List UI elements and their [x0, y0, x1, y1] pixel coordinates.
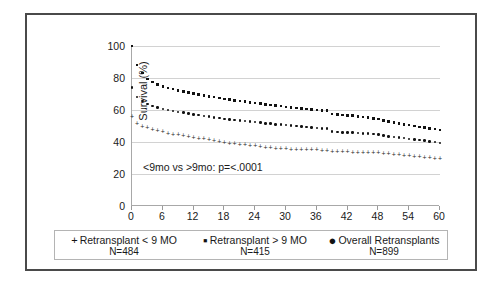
data-point — [305, 126, 308, 129]
data-point — [269, 122, 272, 125]
y-tick-label: 20 — [113, 169, 125, 179]
x-tick-label: 60 — [424, 211, 454, 221]
data-point — [346, 131, 349, 134]
data-point — [239, 119, 242, 122]
data-point — [233, 119, 236, 122]
data-point — [182, 111, 185, 114]
x-tick-label: 24 — [239, 211, 269, 221]
data-point — [423, 139, 426, 142]
x-tick-label: 42 — [332, 211, 362, 221]
data-point — [187, 112, 190, 115]
data-point — [131, 86, 134, 89]
x-tick-label: 18 — [208, 211, 238, 221]
data-point — [310, 126, 313, 129]
data-point — [398, 136, 401, 139]
data-point — [280, 123, 283, 126]
legend-marker-icon: ▪ — [203, 235, 208, 247]
data-point — [244, 120, 247, 123]
legend-item-count: N=415 — [189, 246, 321, 257]
data-point — [382, 134, 385, 137]
x-tick-label: 30 — [270, 211, 300, 221]
data-point — [156, 106, 159, 109]
data-point — [213, 116, 216, 119]
legend-item[interactable]: ▪Retransplant > 9 MON=415 — [189, 234, 321, 257]
legend-item-label-row: +Retransplant < 9 MO — [59, 234, 189, 246]
data-point — [341, 131, 344, 134]
legend-item-label: Overall Retransplants — [338, 234, 439, 246]
data-point — [197, 114, 200, 117]
p-value-annotation: <9mo vs >9mo: p=<.0001 — [143, 161, 263, 173]
legend-item-label: Retransplant < 9 MO — [80, 234, 177, 246]
data-point — [228, 118, 231, 121]
x-tick-label: 0 — [116, 211, 146, 221]
data-point — [439, 142, 442, 145]
data-point — [387, 135, 390, 138]
data-point — [254, 121, 257, 124]
plot-area: Survival (%) 020406080100 06121824303642… — [131, 33, 441, 203]
data-point — [372, 133, 375, 136]
legend-marker-icon: + — [71, 234, 77, 246]
legend-item-count: N=899 — [321, 246, 447, 257]
legend-item-label-row: ●Overall Retransplants — [321, 234, 447, 246]
data-point — [146, 103, 149, 106]
x-tick-label: 36 — [301, 211, 331, 221]
x-tick-label: 12 — [178, 211, 208, 221]
legend-marker-icon: ● — [329, 235, 337, 247]
data-point — [192, 113, 195, 116]
data-point — [403, 137, 406, 140]
legend-item-label: Retransplant > 9 MO — [210, 234, 307, 246]
data-point — [357, 132, 360, 135]
data-point — [151, 105, 154, 108]
y-tick-label: 80 — [113, 73, 125, 83]
data-point — [259, 121, 262, 124]
legend-item-label-row: ▪Retransplant > 9 MO — [189, 234, 321, 246]
data-point — [141, 100, 144, 103]
data-point — [418, 139, 421, 142]
data-point — [167, 109, 170, 112]
figure-frame: Survival (%) 020406080100 06121824303642… — [25, 13, 477, 271]
data-point — [408, 138, 411, 141]
data-point — [172, 110, 175, 113]
series-2 — [132, 46, 440, 206]
data-point — [223, 118, 226, 121]
y-tick-label: 0 — [119, 201, 125, 211]
data-point — [428, 140, 431, 143]
legend-item[interactable]: ●Overall RetransplantsN=899 — [321, 234, 447, 257]
data-point — [203, 115, 206, 118]
data-point — [367, 132, 370, 135]
data-point — [321, 127, 324, 130]
data-point — [377, 133, 380, 136]
legend-item[interactable]: +Retransplant < 9 MON=484 — [59, 234, 189, 257]
data-point — [434, 141, 437, 144]
x-tick-label: 54 — [393, 211, 423, 221]
data-point — [331, 130, 334, 133]
y-tick-label: 100 — [107, 41, 125, 51]
data-point — [413, 138, 416, 141]
data-point — [162, 108, 165, 111]
x-tick-label: 48 — [362, 211, 392, 221]
data-point — [393, 136, 396, 139]
data-point — [264, 122, 267, 125]
y-tick-label: 60 — [113, 105, 125, 115]
data-point — [290, 124, 293, 127]
data-point — [218, 117, 221, 120]
chart-legend: +Retransplant < 9 MON=484▪Retransplant >… — [54, 230, 448, 260]
data-point — [351, 131, 354, 134]
data-point — [316, 127, 319, 130]
plot-canvas — [131, 46, 439, 206]
data-point — [177, 111, 180, 114]
data-point — [249, 120, 252, 123]
data-point — [336, 131, 339, 134]
legend-item-count: N=484 — [59, 246, 189, 257]
data-point — [274, 123, 277, 126]
data-point — [136, 96, 139, 99]
x-tick-label: 6 — [147, 211, 177, 221]
data-point — [285, 124, 288, 127]
data-point — [362, 132, 365, 135]
data-point — [300, 125, 303, 128]
y-tick-label: 40 — [113, 137, 125, 147]
data-point — [326, 127, 329, 130]
data-point — [295, 125, 298, 128]
data-point — [208, 115, 211, 118]
